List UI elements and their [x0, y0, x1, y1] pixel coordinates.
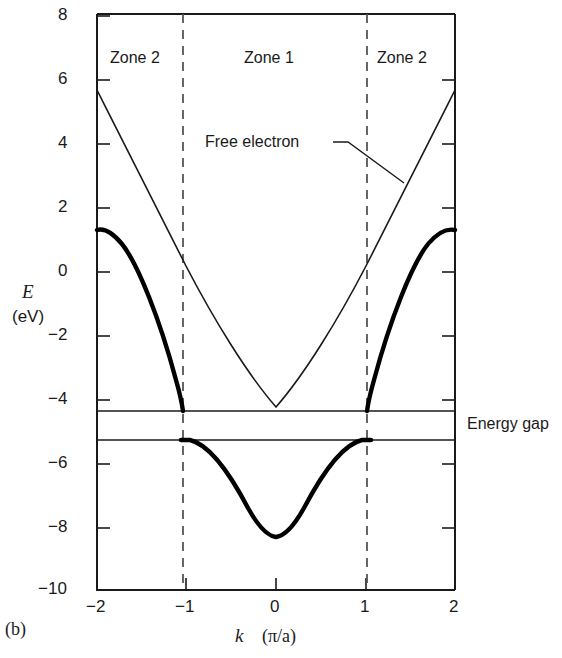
y-tick-label-6: 6	[58, 69, 67, 89]
y-tick-label-4: 4	[58, 133, 67, 153]
x-tick-label-2: 2	[449, 597, 458, 617]
y-axis-unit-label: (eV)	[12, 307, 44, 327]
energy-gap-annotation: Energy gap	[467, 415, 549, 433]
energy-gap-lines	[97, 411, 455, 440]
y-tick-label-2: 2	[58, 197, 67, 217]
x-tick-label-0: 0	[270, 597, 279, 617]
band-structure-figure: 8 6 4 2 0 −2 −4 −6 −8 −10 −2 −1 0 1 2 E …	[0, 0, 562, 658]
upper-band-curve-right	[367, 230, 455, 411]
x-tick-label-1: 1	[360, 597, 369, 617]
x-axis-unit-label: (π/a)	[262, 626, 296, 647]
y-tick-label-8: 8	[58, 5, 67, 25]
panel-label: (b)	[5, 619, 26, 640]
y-tick-label-m8: −8	[48, 517, 67, 537]
y-tick-label-m2: −2	[48, 325, 67, 345]
chart-canvas	[0, 0, 562, 658]
x-tick-label-m1: −1	[175, 597, 194, 617]
free-electron-leader-line	[333, 142, 404, 183]
y-tick-label-m6: −6	[48, 453, 67, 473]
free-electron-annotation: Free electron	[205, 133, 299, 151]
y-axis-ticks-right	[442, 80, 455, 528]
y-tick-label-m10: −10	[38, 579, 67, 599]
upper-band-curve-left	[97, 230, 183, 411]
y-tick-label-0: 0	[58, 261, 67, 281]
y-tick-label-m4: −4	[48, 389, 67, 409]
zone-label-center: Zone 1	[244, 49, 294, 67]
lower-band-curve	[181, 440, 371, 537]
zone-label-right: Zone 2	[377, 49, 427, 67]
x-axis-ticks	[97, 578, 455, 590]
y-axis-title: E	[22, 281, 34, 303]
x-axis-title: k	[235, 625, 243, 647]
zone-boundary-lines	[183, 14, 367, 590]
x-tick-label-m2: −2	[86, 597, 105, 617]
zone-label-left: Zone 2	[110, 49, 160, 67]
